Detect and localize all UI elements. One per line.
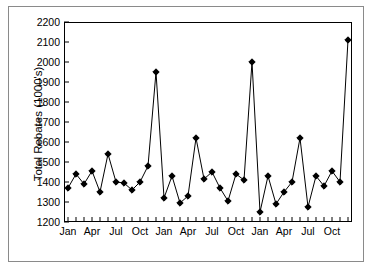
data-point-marker <box>89 168 95 174</box>
data-point-marker <box>145 163 151 169</box>
data-point-marker <box>249 59 255 65</box>
y-axis-tick-labels: 1200130014001500160017001800190020002100… <box>22 22 60 222</box>
data-point-marker <box>153 69 159 75</box>
chart-figure: Total Rebates (1000's) 12001300140015001… <box>0 0 374 274</box>
y-axis-tick-label: 2200 <box>24 17 60 27</box>
data-point-marker <box>265 173 271 179</box>
y-axis-tick-label: 1500 <box>24 157 60 167</box>
data-point-marker <box>217 185 223 191</box>
data-point-marker <box>161 195 167 201</box>
data-point-marker <box>105 151 111 157</box>
x-axis-tick-label: Oct <box>317 225 347 237</box>
data-point-marker <box>193 135 199 141</box>
data-point-marker <box>273 201 279 207</box>
data-point-marker <box>65 185 71 191</box>
y-axis-tick-label: 2000 <box>24 57 60 67</box>
data-point-marker <box>257 209 263 215</box>
line-chart-plot <box>64 22 352 222</box>
data-point-marker <box>305 204 311 210</box>
data-point-marker <box>225 198 231 204</box>
data-point-marker <box>113 179 119 185</box>
y-axis-tick-label: 1600 <box>24 137 60 147</box>
data-point-marker <box>97 189 103 195</box>
data-point-marker <box>297 135 303 141</box>
data-point-marker <box>345 37 351 43</box>
y-axis-tick-label: 1800 <box>24 97 60 107</box>
x-axis-ticks <box>68 217 348 222</box>
data-series-line <box>68 40 348 212</box>
y-axis-tick-label: 1700 <box>24 117 60 127</box>
y-axis-tick-label: 2100 <box>24 37 60 47</box>
data-point-markers <box>65 37 351 215</box>
y-axis-tick-label: 1300 <box>24 197 60 207</box>
y-axis-tick-label: 1900 <box>24 77 60 87</box>
data-point-marker <box>169 173 175 179</box>
y-axis-ticks <box>64 22 69 222</box>
y-axis-tick-label: 1400 <box>24 177 60 187</box>
x-axis-tick-labels: JanAprJulOctJanAprJulOctJanAprJulOct <box>64 225 352 241</box>
